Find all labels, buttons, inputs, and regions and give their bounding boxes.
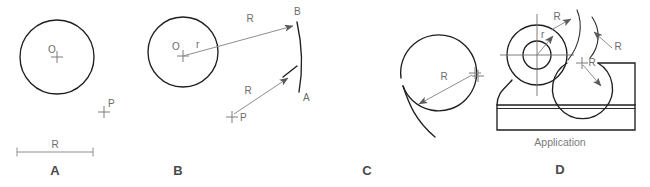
panel-letter-a: A (50, 163, 60, 178)
panel-b-arc-end-a-label: A (303, 92, 310, 103)
panel-letter-b: B (173, 163, 182, 178)
panel-c-circle (401, 35, 477, 111)
panel-d-caption: Application (534, 136, 586, 148)
panel-b-tangent-arc (283, 66, 297, 77)
panel-b-leader-top (183, 26, 293, 56)
panel-a-center-label: O (48, 44, 56, 55)
panel-d-left-fillet (497, 80, 512, 105)
panel-letter-c: C (362, 163, 372, 178)
figure-canvas: O P R A O r (0, 0, 650, 187)
technical-drawing-svg: O P R A O r (0, 0, 650, 187)
panel-d-radius-2-label: R (588, 57, 595, 68)
panel-a-radius-label: R (51, 139, 58, 150)
panel-b-radius-top-label: R (246, 13, 253, 24)
panel-d-construction-arc-2 (590, 17, 598, 58)
panel-b-construction-arc (297, 22, 302, 92)
panel-c: R C (362, 35, 481, 178)
panel-d-radius-1-label: R (553, 11, 560, 22)
panel-a-point-p-label: P (108, 98, 115, 109)
panel-b-point-p-label: P (240, 112, 247, 123)
panel-d-lobe-center-mark (576, 57, 588, 69)
panel-d-right-wall (598, 63, 635, 105)
panel-d-radius-3-label: R (614, 41, 621, 52)
panel-d-construction-arc-1 (568, 10, 580, 60)
panel-c-tangent-curve (403, 86, 435, 137)
panel-c-point-mark (469, 67, 481, 79)
panel-b-leader-bottom (234, 78, 288, 114)
panel-b-small-radius-label: r (196, 39, 200, 50)
panel-letter-d: D (555, 162, 564, 177)
panel-c-radius-label: R (440, 71, 447, 82)
panel-a: O P R A (17, 20, 115, 178)
panel-b-arc-end-b-label: B (294, 6, 301, 17)
panel-b: O r R P R B A B (148, 6, 310, 178)
panel-d-radius-2-leader (583, 65, 601, 86)
panel-d-point-mark (472, 70, 484, 82)
panel-d-small-radius-label: r (541, 29, 545, 40)
panel-b-radius-bottom-label: R (244, 85, 251, 96)
panel-d: r R R R Application D (472, 10, 635, 177)
panel-b-center-label: O (172, 41, 180, 52)
